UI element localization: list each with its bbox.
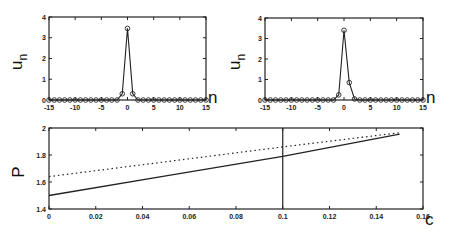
y-tick-label: 1.4 [36, 206, 46, 213]
x-tick-label: -10 [286, 104, 296, 111]
x-tick-label: 5 [152, 104, 156, 111]
panel-bottom: 00.020.040.060.080.10.120.140.161.41.61.… [9, 125, 434, 230]
x-tick-label: 5 [368, 104, 372, 111]
x-tick-label: 0.02 [89, 213, 103, 220]
x-tick-label: 0.04 [136, 213, 150, 220]
y-tick-label: 0 [258, 97, 262, 104]
panel-top-right: -15-10-505101501234unn [225, 15, 435, 112]
y-tick-label: 1 [258, 76, 262, 83]
y-tick-label: 1.6 [36, 179, 46, 186]
y-tick-label: 2 [258, 56, 262, 63]
y-tick-label: 4 [42, 14, 46, 21]
x-tick-label: -5 [98, 104, 104, 111]
y-tick-label: 2 [42, 55, 46, 62]
x-tick-label: 0.12 [323, 213, 337, 220]
x-tick-label: 10 [393, 104, 401, 111]
y-axis-label: P [9, 166, 28, 177]
x-tick-label: 0.1 [278, 213, 288, 220]
y-tick-label: 2 [42, 125, 46, 132]
series-dotted [49, 133, 400, 177]
x-tick-label: 0.08 [229, 213, 243, 220]
x-axis-label: n [208, 88, 217, 107]
panel-top-left: -15-10-505101501234unn [7, 14, 217, 112]
y-tick-label: 0 [42, 97, 46, 104]
x-tick-label: 0 [47, 213, 51, 220]
x-tick-label: 0.06 [182, 213, 196, 220]
y-tick-label: 3 [42, 34, 46, 41]
x-tick-label: 0 [342, 104, 346, 111]
figure: -15-10-505101501234unn-15-10-50510150123… [0, 0, 451, 233]
y-tick-label: 3 [258, 35, 262, 42]
x-tick-label: 0 [126, 104, 130, 111]
x-tick-label: 10 [176, 104, 184, 111]
y-axis-label: un [7, 54, 30, 70]
y-tick-label: 1.8 [36, 152, 46, 159]
x-tick-label: -5 [315, 104, 321, 111]
x-tick-label: -10 [70, 104, 80, 111]
x-tick-label: -15 [260, 104, 270, 111]
x-tick-label: 0.14 [369, 213, 383, 220]
y-tick-label: 4 [258, 15, 262, 22]
y-tick-label: 1 [42, 76, 46, 83]
profile-line [49, 28, 206, 100]
x-axis-label: n [426, 88, 435, 107]
series-solid [49, 134, 400, 195]
x-axis-label: c [425, 210, 434, 229]
x-tick-label: -15 [44, 104, 54, 111]
profile-line [265, 30, 423, 100]
y-axis-label: un [225, 54, 248, 70]
